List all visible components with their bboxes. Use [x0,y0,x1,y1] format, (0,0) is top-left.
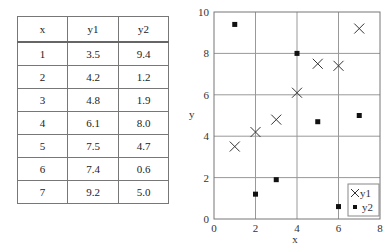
point-y1-x-marker-icon [271,115,281,125]
point-y2-square-marker-icon [274,177,279,182]
y-tick-label: 0 [204,213,210,225]
x-tick-label: 2 [253,222,259,234]
scatter-chart: 024680246810 y x y1 y2 [0,0,387,246]
y-tick-label: 8 [204,47,210,59]
y-tick-label: 6 [204,89,210,101]
y-tick-label: 4 [204,130,210,142]
point-y2-square-marker-icon [336,204,341,209]
y-axis-label: y [189,108,195,120]
legend-label-y2: y2 [362,201,373,213]
legend: y1 y2 [348,184,379,216]
point-y2-square-marker-icon [357,113,362,118]
x-tick-label: 0 [211,222,217,234]
point-y2-square-marker-icon [253,192,258,197]
legend-square-marker-icon [353,205,357,209]
point-y1-x-marker-icon [354,24,364,34]
y-tick-label: 10 [198,6,210,18]
x-tick-label: 6 [336,222,342,234]
x-tick-label: 8 [377,222,383,234]
point-y2-square-marker-icon [315,119,320,124]
point-y1-x-marker-icon [313,59,323,69]
point-y2-square-marker-icon [232,22,237,27]
x-axis-label: x [292,233,298,245]
point-y1-x-marker-icon [230,142,240,152]
y-tick-label: 2 [204,172,210,184]
point-y2-square-marker-icon [295,51,300,56]
legend-label-y1: y1 [360,187,371,199]
